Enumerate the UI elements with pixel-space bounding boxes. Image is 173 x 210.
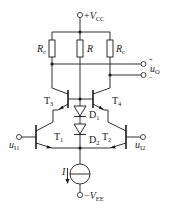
svg-text:T2: T2 [102, 131, 111, 143]
output-terminals: + − uO [141, 56, 160, 81]
svg-text:T3: T3 [44, 95, 53, 107]
resistor-rc-left: Rc [36, 40, 55, 57]
svg-text:+: + [149, 56, 153, 63]
svg-text:Rc: Rc [36, 43, 46, 55]
transistor-t3: T3 [44, 88, 68, 118]
svg-text:T4: T4 [112, 95, 122, 107]
svg-text:uO: uO [150, 63, 160, 75]
transistor-t1: T1 [36, 118, 80, 149]
circuit-diagram: +VCC Rc R Rc + − uO [0, 0, 173, 210]
resistor-r-center: R [77, 40, 93, 57]
svg-text:Rc: Rc [115, 43, 125, 55]
svg-text:R: R [86, 43, 93, 54]
svg-text:uI2: uI2 [135, 139, 145, 151]
resistor-rc-right: Rc [107, 40, 125, 57]
vcc-terminal: +VCC [77, 10, 104, 32]
input-ui2: uI2 [126, 135, 146, 152]
current-source: I [61, 148, 90, 192]
svg-text:I: I [61, 166, 66, 177]
svg-text:−VEE: −VEE [84, 190, 104, 202]
svg-text:T1: T1 [54, 131, 63, 143]
svg-text:D1: D1 [89, 109, 99, 121]
input-ui1: uI1 [9, 135, 36, 152]
diode-d2: D2 [74, 124, 99, 148]
vee-terminal: −VEE [77, 190, 103, 202]
top-rail [52, 30, 110, 40]
svg-text:uI1: uI1 [9, 139, 19, 151]
diode-d1: D1 [74, 99, 99, 124]
base-link-t3-t4 [68, 97, 93, 100]
transistor-t2: T2 [80, 118, 126, 149]
svg-text:+VCC: +VCC [84, 10, 104, 22]
svg-text:−: − [149, 74, 153, 81]
svg-text:D2: D2 [89, 134, 99, 146]
